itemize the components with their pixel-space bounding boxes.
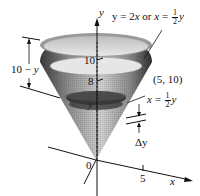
- line-eq-y: y: [179, 10, 184, 22]
- line-eq-or: or: [140, 10, 155, 22]
- height-label: 10 − y: [11, 64, 39, 75]
- shell-equation-label: x = 12y: [147, 92, 177, 109]
- shell-eq-fraction: 12: [165, 92, 171, 109]
- origin-label: 0: [86, 160, 92, 171]
- height-y: y: [34, 63, 39, 75]
- cone-diagram: y y = 2x or x = 12y 10 8 (5, 10) x = 12y…: [0, 0, 200, 196]
- shell-eq-y: y: [172, 93, 177, 105]
- y-tick-10: 10: [84, 55, 95, 66]
- slice-y-label: y: [88, 99, 93, 110]
- y-tick-8: 8: [88, 76, 94, 87]
- line-eq-equals: =: [159, 10, 171, 22]
- height-ten: 10 −: [11, 63, 34, 75]
- line-eq-fraction: 12: [172, 9, 178, 26]
- x-axis-label: x: [170, 176, 175, 187]
- y-axis-label: y: [99, 7, 104, 18]
- line-eq-lhs: y = 2: [112, 10, 135, 22]
- line-equation-label: y = 2x or x = 12y: [112, 9, 184, 26]
- x-tick-5: 5: [140, 173, 146, 184]
- delta-y-marker: [126, 104, 146, 133]
- point-label: (5, 10): [153, 74, 182, 85]
- shell-eq-equals: =: [152, 93, 164, 105]
- delta-y-label: Δy: [135, 137, 148, 148]
